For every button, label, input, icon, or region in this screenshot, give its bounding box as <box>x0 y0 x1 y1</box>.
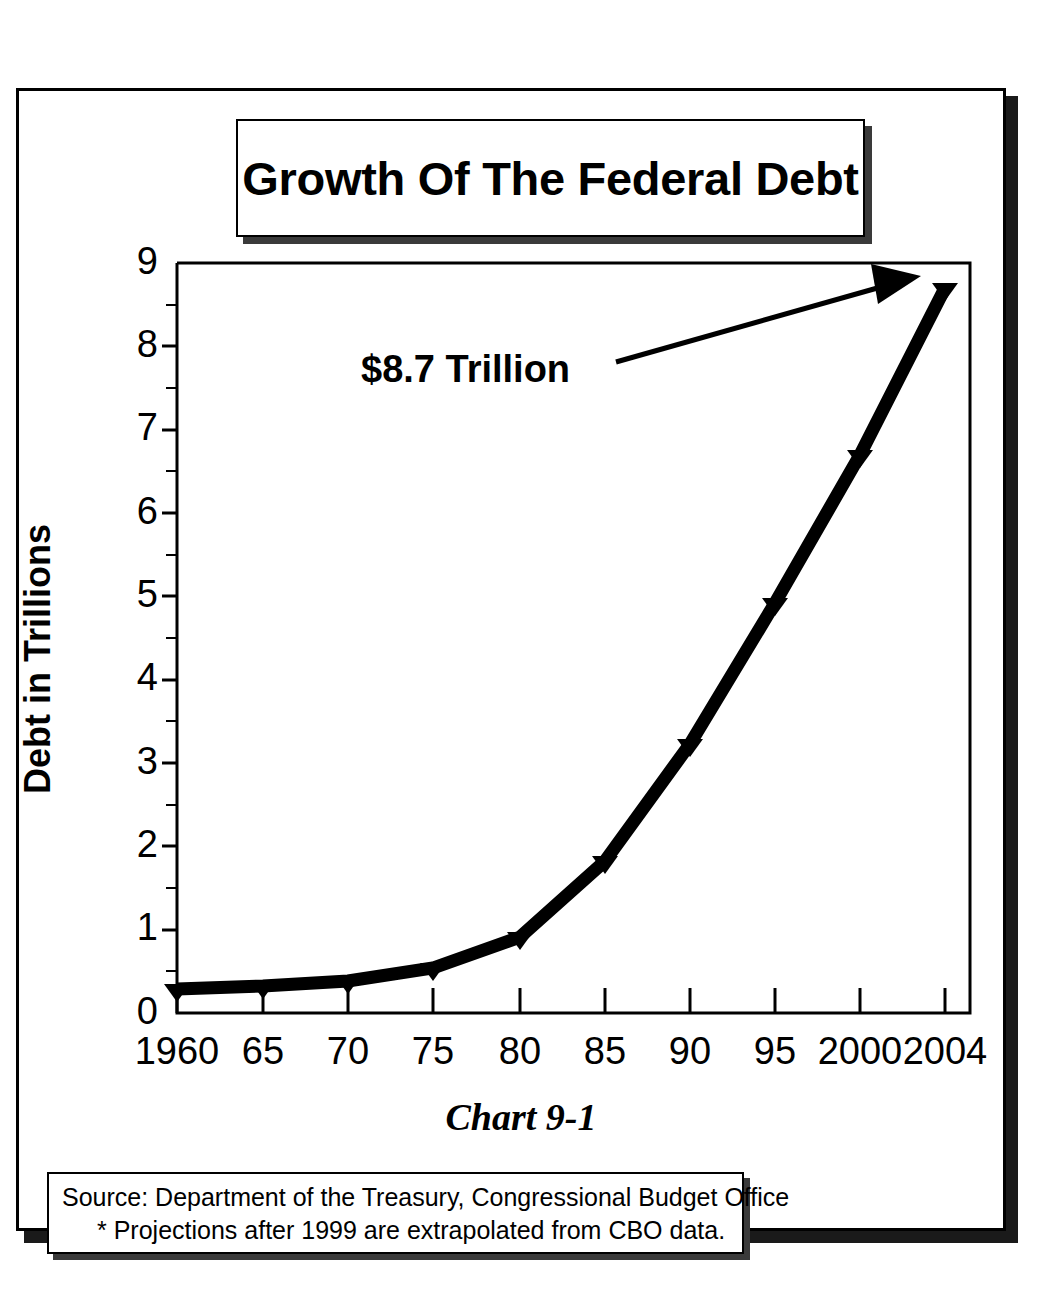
y-tick-label-9: 9 <box>98 242 158 280</box>
x-tick-label-80: 80 <box>475 1032 565 1070</box>
x-tick-label-75: 75 <box>388 1032 478 1070</box>
title-box: Growth Of The Federal Debt <box>236 119 865 237</box>
chart-caption: Chart 9-1 <box>356 1095 686 1139</box>
plot-frame <box>177 263 970 1013</box>
plot-area-wrapper: Debt in Trillions 9 8 7 6 5 4 3 2 1 0 $8… <box>16 250 1006 1050</box>
y-tick-label-6: 6 <box>98 492 158 530</box>
debt-data-series <box>177 288 945 989</box>
y-tick-label-0: 0 <box>98 992 158 1030</box>
y-tick-label-1: 1 <box>98 908 158 946</box>
source-line-1: Source: Department of the Treasury, Cong… <box>49 1181 742 1214</box>
source-box: Source: Department of the Treasury, Cong… <box>47 1172 744 1254</box>
chart-page: Growth Of The Federal Debt Debt in Trill… <box>0 0 1045 1308</box>
y-tick-label-5: 5 <box>98 575 158 613</box>
x-tick-label-90: 90 <box>645 1032 735 1070</box>
y-tick-label-4: 4 <box>98 658 158 696</box>
y-tick-label-8: 8 <box>98 325 158 363</box>
x-axis-ticks <box>177 988 945 1013</box>
annotation-arrow <box>616 264 921 362</box>
y-axis-minor-ticks <box>166 305 177 971</box>
page-title: Growth Of The Federal Debt <box>242 155 858 202</box>
y-tick-label-7: 7 <box>98 408 158 446</box>
x-tick-label-70: 70 <box>303 1032 393 1070</box>
x-tick-label-65: 65 <box>218 1032 308 1070</box>
y-tick-label-2: 2 <box>98 825 158 863</box>
y-tick-label-3: 3 <box>98 742 158 780</box>
annotation-label: $8.7 Trillion <box>361 350 570 388</box>
y-axis-title: Debt in Trillions <box>17 449 59 869</box>
x-tick-label-85: 85 <box>560 1032 650 1070</box>
x-tick-label-2004: 2004 <box>885 1032 1005 1070</box>
source-line-2: * Projections after 1999 are extrapolate… <box>49 1214 742 1247</box>
